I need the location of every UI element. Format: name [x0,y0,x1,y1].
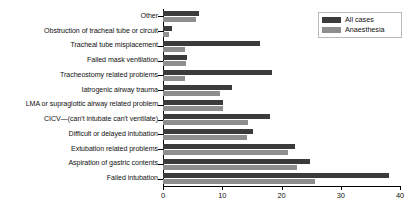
bar-all-cases [163,41,260,46]
category-label-text: CICV—(can't intubate can't ventilate) [44,116,158,123]
bar-group [163,171,400,186]
bar-all-cases [163,159,310,164]
bar-all-cases [163,85,232,90]
bar-anaesthesia [163,32,169,37]
category-label-text: Extubation related problems [71,146,158,153]
category-label-text: Tracheostomy related problems [60,72,158,79]
category-label: Obstruction of tracheal tube or circuit [44,24,158,39]
legend-label-anaesthesia: Anaesthesia [345,26,385,33]
bar-group [163,68,400,83]
category-label-text: Other [141,13,159,20]
legend-swatch-anaesthesia [322,27,341,33]
bar-anaesthesia [163,47,185,52]
category-label-text: Difficult or delayed intubation [69,131,158,138]
legend-item-all-cases: All cases [322,15,398,25]
x-axis-tick-label: 20 [277,191,285,200]
x-axis-tick [341,186,342,190]
bar-anaesthesia [163,179,315,184]
x-axis-tick [282,186,283,190]
category-label-text: Obstruction of tracheal tube or circuit [44,28,158,35]
x-axis-tick-label: 40 [396,191,404,200]
category-label: LMA or supraglottic airway related probl… [26,98,158,113]
category-label: Tracheostomy related problems [60,68,158,83]
category-label-text: Failed intubation [107,175,158,182]
bar-group [163,112,400,127]
bar-all-cases [163,11,199,16]
bar-group [163,98,400,113]
bar-all-cases [163,26,172,31]
bar-anaesthesia [163,120,248,125]
x-axis-tick-label: 30 [337,191,345,200]
category-label: Other [141,9,159,24]
category-label: Failed intubation [107,171,158,186]
legend-item-anaesthesia: Anaesthesia [322,25,398,35]
category-label: Failed mask ventilation [87,53,158,68]
legend: All cases Anaesthesia [318,12,402,38]
bar-anaesthesia [163,165,297,170]
category-label: Aspiration of gastric contents [68,157,158,172]
bar-group [163,142,400,157]
category-label-text: Aspiration of gastric contents [68,160,158,167]
bar-all-cases [163,55,187,60]
bar-all-cases [163,144,295,149]
category-label: Difficult or delayed intubation [69,127,158,142]
bar-anaesthesia [163,135,247,140]
bar-group [163,157,400,172]
bar-anaesthesia [163,61,186,66]
bar-all-cases [163,114,270,119]
bar-all-cases [163,70,272,75]
category-label-text: Iatrogenic airway trauma [82,87,158,94]
bar-chart: OtherObstruction of tracheal tube or cir… [0,0,418,210]
bar-anaesthesia [163,76,185,81]
bar-all-cases [163,129,253,134]
bar-all-cases [163,100,223,105]
category-label-text: LMA or supraglottic airway related probl… [26,101,158,108]
x-axis-tick [163,186,164,190]
bar-anaesthesia [163,17,196,22]
category-label: Iatrogenic airway trauma [82,83,158,98]
category-label: Tracheal tube misplacement [70,39,158,54]
bar-group [163,39,400,54]
legend-label-all-cases: All cases [345,16,374,23]
category-label: Extubation related problems [71,142,158,157]
bar-anaesthesia [163,91,220,96]
legend-swatch-all-cases [322,17,341,23]
bar-group [163,53,400,68]
category-label-text: Tracheal tube misplacement [70,42,158,49]
bar-group [163,127,400,142]
bar-anaesthesia [163,150,288,155]
category-label: CICV—(can't intubate can't ventilate) [44,112,158,127]
category-label-text: Failed mask ventilation [87,57,158,64]
x-axis-tick [400,186,401,190]
category-axis-labels: OtherObstruction of tracheal tube or cir… [0,9,158,186]
bar-all-cases [163,173,389,178]
x-axis-tick-label: 0 [161,191,165,200]
bar-anaesthesia [163,106,223,111]
x-axis-tick-label: 10 [218,191,226,200]
x-axis-tick [222,186,223,190]
bar-group [163,83,400,98]
